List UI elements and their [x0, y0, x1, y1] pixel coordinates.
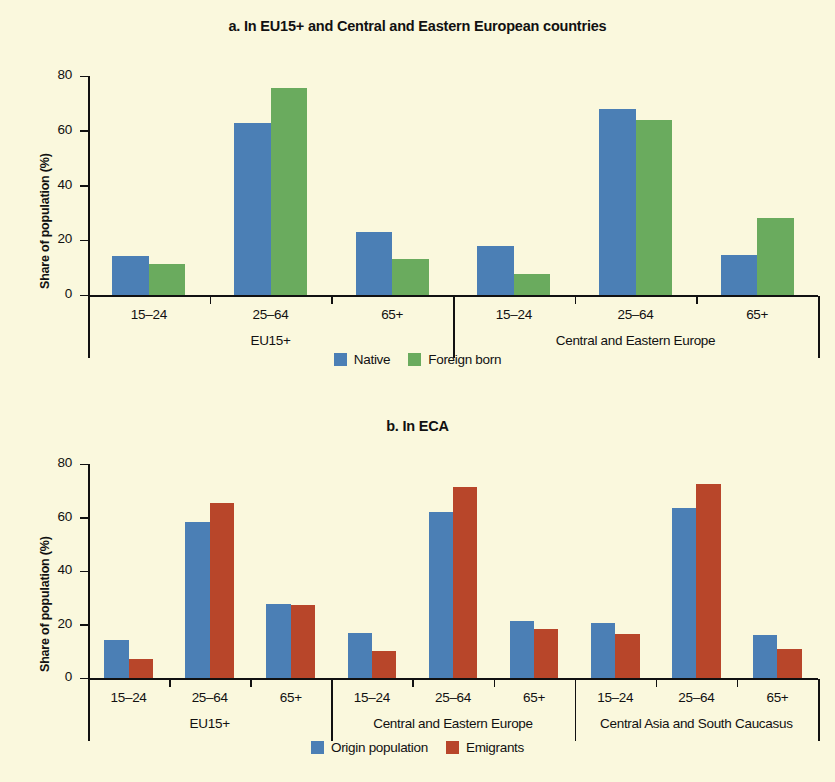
legend-label: Native [354, 352, 390, 367]
x-group-label: Central and Eastern Europe [331, 716, 574, 731]
group-separator [453, 296, 455, 358]
x-category-label: 15–24 [88, 690, 169, 705]
bar-native-5 [721, 255, 758, 295]
x-tick-mark [656, 679, 658, 687]
bar-emigrants-3 [372, 651, 396, 678]
y-axis-line [88, 464, 90, 679]
y-tick-label: 20 [38, 231, 72, 246]
y-tick-label: 80 [38, 455, 72, 470]
x-axis-line [88, 678, 818, 680]
bar-origin-population-4 [429, 512, 453, 678]
legend-label: Origin population [331, 740, 428, 755]
bar-foreign-born-4 [636, 120, 673, 295]
legend-item-origin-population[interactable]: Origin population [311, 740, 428, 755]
panel-a: a. In EU15+ and Central and Eastern Euro… [0, 0, 835, 400]
legend-label: Foreign born [428, 352, 501, 367]
group-separator [88, 296, 90, 358]
bar-origin-population-5 [510, 621, 534, 678]
bar-origin-population-8 [753, 635, 777, 678]
bar-native-0 [112, 256, 149, 295]
y-tick-mark [80, 185, 88, 187]
legend-swatch-icon [408, 353, 421, 366]
panel-b: b. In ECA Share of population (%)0204060… [0, 400, 835, 782]
bar-emigrants-2 [291, 605, 315, 678]
bar-emigrants-7 [696, 484, 720, 678]
y-tick-label: 40 [38, 177, 72, 192]
x-category-label: 65+ [250, 690, 331, 705]
bar-origin-population-0 [104, 640, 128, 678]
x-category-label: 15–24 [88, 307, 210, 322]
x-category-label: 25–64 [656, 690, 737, 705]
x-category-label: 15–24 [453, 307, 575, 322]
bar-emigrants-6 [615, 634, 639, 678]
bar-emigrants-4 [453, 487, 477, 678]
panel-a-plot: Share of population (%)02040608015–2425–… [0, 8, 835, 355]
x-tick-mark [696, 296, 698, 304]
group-separator [575, 679, 577, 741]
bar-native-1 [234, 123, 271, 295]
x-group-label: Central and Eastern Europe [453, 333, 818, 348]
y-tick-label: 40 [38, 562, 72, 577]
x-tick-mark [210, 296, 212, 304]
bar-origin-population-3 [348, 633, 372, 678]
group-separator [331, 679, 333, 741]
x-category-label: 15–24 [575, 690, 656, 705]
x-category-label: 25–64 [575, 307, 697, 322]
y-tick-mark [80, 240, 88, 242]
y-tick-mark [80, 464, 88, 466]
x-category-label: 65+ [696, 307, 818, 322]
x-tick-mark [575, 296, 577, 304]
x-tick-mark [412, 679, 414, 687]
x-group-label: EU15+ [88, 716, 331, 731]
x-category-label: 65+ [737, 690, 818, 705]
bar-origin-population-7 [672, 508, 696, 678]
x-category-label: 65+ [494, 690, 575, 705]
y-tick-mark [80, 678, 88, 680]
legend-item-native[interactable]: Native [334, 352, 390, 367]
bar-foreign-born-1 [271, 88, 308, 295]
x-category-label: 15–24 [331, 690, 412, 705]
x-tick-mark [737, 679, 739, 687]
group-separator [818, 679, 820, 741]
bar-native-2 [356, 232, 393, 295]
legend-item-emigrants[interactable]: Emigrants [446, 740, 524, 755]
legend-swatch-icon [446, 741, 459, 754]
bar-emigrants-5 [534, 629, 558, 678]
bar-foreign-born-2 [392, 259, 429, 295]
x-category-label: 25–64 [210, 307, 332, 322]
bar-native-4 [599, 109, 636, 295]
legend-swatch-icon [334, 353, 347, 366]
panel-a-legend: NativeForeign born [0, 352, 835, 367]
x-tick-mark [250, 679, 252, 687]
bar-native-3 [477, 246, 514, 295]
x-tick-mark [494, 679, 496, 687]
y-tick-label: 20 [38, 616, 72, 631]
x-tick-mark [331, 296, 333, 304]
y-tick-label: 0 [38, 669, 72, 684]
group-separator [88, 679, 90, 741]
group-separator [818, 296, 820, 358]
y-tick-mark [80, 517, 88, 519]
y-tick-mark [80, 624, 88, 626]
x-tick-mark [169, 679, 171, 687]
y-axis-line [88, 76, 90, 296]
bar-emigrants-0 [129, 659, 153, 678]
y-tick-label: 60 [38, 509, 72, 524]
x-category-label: 65+ [331, 307, 453, 322]
y-axis-label: Share of population (%) [38, 153, 52, 289]
y-tick-mark [80, 571, 88, 573]
bar-origin-population-6 [591, 623, 615, 678]
bar-origin-population-1 [185, 522, 209, 678]
figure-root: a. In EU15+ and Central and Eastern Euro… [0, 0, 835, 782]
panel-b-plot: Share of population (%)02040608015–2425–… [0, 406, 835, 740]
y-tick-label: 0 [38, 286, 72, 301]
x-group-label: Central Asia and South Caucasus [575, 716, 818, 731]
y-tick-mark [80, 295, 88, 297]
legend-item-foreign-born[interactable]: Foreign born [408, 352, 501, 367]
x-category-label: 25–64 [169, 690, 250, 705]
legend-swatch-icon [311, 741, 324, 754]
x-group-label: EU15+ [88, 333, 453, 348]
panel-b-legend: Origin populationEmigrants [0, 740, 835, 755]
y-tick-label: 80 [38, 67, 72, 82]
bar-foreign-born-3 [514, 274, 551, 295]
